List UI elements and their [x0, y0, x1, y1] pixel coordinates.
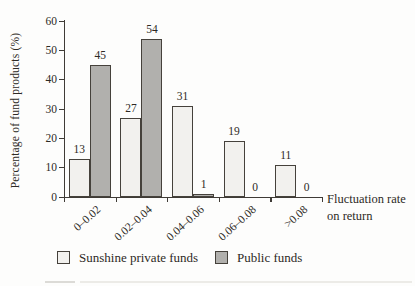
legend-label-private: Sunshine private funds [79, 250, 198, 266]
y-axis-line [64, 20, 65, 197]
x-category-label: >0.08 [281, 203, 309, 230]
bar-value-label: 0 [240, 181, 270, 194]
bar-value-label: 54 [137, 23, 167, 36]
y-axis-tick [59, 109, 64, 110]
y-tick-label: 50 [31, 44, 57, 57]
page-rule-left [45, 281, 75, 283]
bar-value-label: 31 [168, 90, 198, 103]
private-funds-bar [120, 118, 141, 197]
y-axis-tick [59, 138, 64, 139]
y-axis-tick [59, 79, 64, 80]
x-axis-title-line1: Fluctuation rate [327, 192, 406, 207]
bar-value-label: 1 [189, 178, 219, 191]
private-funds-swatch-icon [57, 251, 70, 264]
x-category-label: 0.04–0.06 [164, 203, 206, 243]
x-category-label: 0.02–0.04 [112, 203, 154, 243]
bar-chart-figure: Percentage of fund products (%) Fluctuat… [0, 0, 415, 286]
public-funds-bar [90, 65, 111, 197]
public-funds-bar [141, 39, 162, 197]
x-axis-tick [322, 197, 323, 202]
bar-value-label: 45 [85, 49, 115, 62]
x-axis-title-line2: on return [327, 209, 372, 224]
y-axis-tick [59, 21, 64, 22]
x-axis-tick [270, 197, 271, 202]
x-axis-tick [219, 197, 220, 202]
public-funds-bar [193, 194, 214, 197]
y-axis-title: Percentage of fund products (%) [9, 20, 24, 202]
bar-value-label: 0 [292, 181, 322, 194]
y-tick-label: 40 [31, 73, 57, 86]
public-funds-swatch-icon [215, 251, 228, 264]
x-axis-tick [167, 197, 168, 202]
y-tick-label: 0 [31, 191, 57, 204]
legend-label-public: Public funds [237, 250, 302, 266]
x-category-label: 0.06–0.08 [215, 203, 257, 243]
private-funds-bar [69, 159, 90, 197]
y-axis-tick [59, 50, 64, 51]
y-tick-label: 60 [31, 15, 57, 28]
y-tick-label: 20 [31, 132, 57, 145]
x-category-label: 0–0.02 [71, 203, 103, 233]
y-axis-tick [59, 167, 64, 168]
y-tick-label: 30 [31, 103, 57, 116]
x-axis-tick [64, 197, 65, 202]
bar-value-label: 11 [271, 149, 301, 162]
x-axis-tick [116, 197, 117, 202]
page-rule-main [80, 281, 412, 283]
y-tick-label: 10 [31, 161, 57, 174]
bar-value-label: 19 [219, 125, 249, 138]
